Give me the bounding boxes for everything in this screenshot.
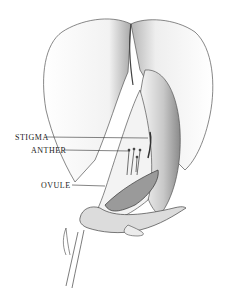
label-stigma: STIGMA <box>15 133 49 142</box>
stem <box>66 230 84 288</box>
label-ovule: OVULE <box>41 181 71 190</box>
label-anther: ANTHER <box>31 146 66 155</box>
